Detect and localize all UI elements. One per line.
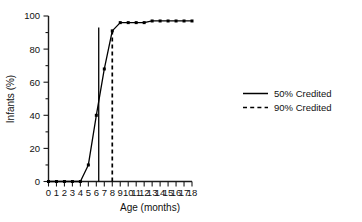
data-point	[143, 21, 146, 24]
x-tick-label: 5	[86, 187, 91, 198]
data-point	[167, 19, 170, 22]
x-axis-ticks	[49, 182, 193, 187]
y-tick-label: 40	[29, 110, 40, 121]
y-tick-label: 100	[24, 10, 40, 21]
data-point	[111, 29, 114, 32]
data-point	[151, 19, 154, 22]
x-tick-label: 1	[54, 187, 59, 198]
x-tick-label: 2	[62, 187, 67, 198]
data-point	[79, 180, 82, 183]
data-series-line	[49, 21, 193, 182]
data-point	[127, 21, 130, 24]
data-point	[95, 114, 98, 117]
y-axis-ticks	[44, 16, 49, 182]
data-series-markers	[47, 19, 194, 183]
legend-label-1: 90% Credited	[274, 102, 332, 113]
data-point	[71, 180, 74, 183]
data-point	[47, 180, 50, 183]
x-tick-label: 4	[78, 187, 83, 198]
data-point	[183, 19, 186, 22]
y-axis-title: Infants (%)	[5, 75, 16, 123]
x-axis-tick-labels: 0123456789101112131415161718	[46, 187, 197, 198]
legend-label-0: 50% Credited	[274, 88, 332, 99]
x-tick-label: 3	[70, 187, 75, 198]
x-tick-label: 7	[102, 187, 107, 198]
data-point	[135, 21, 138, 24]
data-point	[63, 180, 66, 183]
chart-legend: 50% Credited 90% Credited	[243, 88, 332, 113]
reference-lines	[99, 28, 113, 182]
y-tick-label: 20	[29, 143, 40, 154]
data-point	[119, 21, 122, 24]
y-tick-label: 0	[35, 176, 40, 187]
data-point	[87, 163, 90, 166]
x-tick-label: 18	[187, 187, 198, 198]
data-point	[191, 19, 194, 22]
x-tick-label: 6	[94, 187, 99, 198]
x-tick-label: 8	[110, 187, 115, 198]
line-chart: 020406080100 012345678910111213141516171…	[0, 0, 362, 222]
x-axis-title: Age (months)	[120, 202, 180, 213]
y-axis-tick-labels: 020406080100	[24, 10, 40, 187]
data-point	[103, 67, 106, 70]
data-point	[175, 19, 178, 22]
y-tick-label: 80	[29, 44, 40, 55]
data-point	[159, 19, 162, 22]
data-point	[55, 180, 58, 183]
chart-figure: 020406080100 012345678910111213141516171…	[0, 0, 362, 222]
y-tick-label: 60	[29, 77, 40, 88]
x-tick-label: 0	[46, 187, 51, 198]
